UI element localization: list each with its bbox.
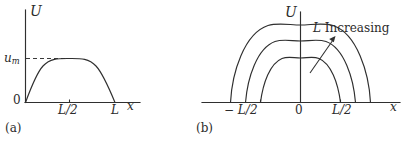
x-tick-label-l-half-a: L/2 xyxy=(58,104,78,116)
x-axis-label-a: x xyxy=(127,100,134,112)
um-subscript: m xyxy=(12,56,20,66)
y-axis-label-b: U xyxy=(285,5,297,19)
figure-root: U um 0 L/2 L x (a) U xyxy=(0,0,411,143)
y-tick-label-um: um xyxy=(4,52,20,66)
l-increasing-italic-l: L xyxy=(313,21,321,35)
um-base: u xyxy=(4,51,12,65)
panel-a: U um 0 L/2 L x (a) xyxy=(0,0,200,143)
panel-tag-b: (b) xyxy=(196,122,213,134)
panel-tag-a: (a) xyxy=(5,122,22,134)
x-tick-label-l-half-b: L/2 xyxy=(332,104,352,116)
x-tick-label-neg-l-half-b: − L/2 xyxy=(224,104,258,116)
origin-label-b: 0 xyxy=(295,104,303,116)
l-increasing-annotation: L Increasing xyxy=(313,22,389,34)
x-axis-label-b: x xyxy=(390,101,397,113)
potential-curve-a xyxy=(26,58,116,102)
panel-a-plot xyxy=(0,0,200,143)
l-increasing-roman: Increasing xyxy=(325,21,390,35)
origin-label-a: 0 xyxy=(13,94,21,106)
x-tick-label-l-a: L xyxy=(111,104,119,116)
y-axis-label-a: U xyxy=(30,4,42,18)
panel-b: U L Increasing − L/2 0 L/2 x (b) xyxy=(200,0,411,143)
